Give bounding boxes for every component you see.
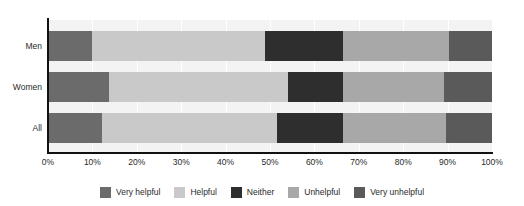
- x-tick-label: 90%: [439, 157, 456, 167]
- bar-segment-very-helpful[interactable]: [48, 72, 109, 102]
- x-tick-label: 60%: [306, 157, 323, 167]
- x-axis-line: [47, 152, 493, 154]
- legend-item[interactable]: Very unhelpful: [354, 187, 424, 198]
- legend-swatch-icon: [288, 187, 299, 198]
- x-tick-label: 30%: [173, 157, 190, 167]
- legend-label: Helpful: [190, 187, 216, 198]
- chart-legend: Very helpfulHelpfulNeitherUnhelpfulVery …: [0, 181, 524, 203]
- legend-swatch-icon: [231, 187, 242, 198]
- chart-title: [0, 0, 524, 10]
- bar-segment-helpful[interactable]: [102, 113, 277, 143]
- bar-segment-very-unhelpful[interactable]: [449, 31, 492, 61]
- bar-segment-unhelpful[interactable]: [343, 113, 446, 143]
- row-label-women: Women: [0, 82, 42, 92]
- legend-item[interactable]: Unhelpful: [288, 187, 340, 198]
- legend-swatch-icon: [100, 187, 111, 198]
- bar-segment-helpful[interactable]: [109, 72, 288, 102]
- x-tick-label: 80%: [395, 157, 412, 167]
- x-tick-label: 70%: [350, 157, 367, 167]
- bar-row-women[interactable]: [48, 72, 492, 102]
- y-axis-line: [47, 18, 49, 154]
- legend-swatch-icon: [174, 187, 185, 198]
- bar-row-all[interactable]: [48, 113, 492, 143]
- x-tick-label: 40%: [217, 157, 234, 167]
- stacked-bar-chart: Men Women All 0%10%20%30%40%50%60%70%80%…: [0, 0, 524, 206]
- legend-label: Very unhelpful: [370, 187, 424, 198]
- bar-segment-very-helpful[interactable]: [48, 113, 102, 143]
- row-label-men: Men: [0, 41, 42, 51]
- x-tick-label: 0%: [42, 157, 54, 167]
- bar-segment-very-unhelpful[interactable]: [444, 72, 492, 102]
- x-tick-label: 50%: [261, 157, 278, 167]
- bar-segment-unhelpful[interactable]: [343, 72, 444, 102]
- x-tick-label: 100%: [481, 157, 503, 167]
- legend-label: Unhelpful: [304, 187, 340, 198]
- bar-segment-helpful[interactable]: [92, 31, 266, 61]
- legend-item[interactable]: Helpful: [174, 187, 216, 198]
- x-tick-label: 20%: [128, 157, 145, 167]
- gridline: [492, 20, 493, 152]
- legend-item[interactable]: Neither: [231, 187, 274, 198]
- row-label-all: All: [0, 123, 42, 133]
- bar-segment-very-helpful[interactable]: [48, 31, 92, 61]
- legend-label: Neither: [247, 187, 274, 198]
- plot-area: [48, 20, 492, 152]
- bar-segment-very-unhelpful[interactable]: [446, 113, 492, 143]
- bar-row-men[interactable]: [48, 31, 492, 61]
- legend-item[interactable]: Very helpful: [100, 187, 160, 198]
- bar-segment-neither[interactable]: [265, 31, 343, 61]
- bar-segment-neither[interactable]: [277, 113, 343, 143]
- legend-swatch-icon: [354, 187, 365, 198]
- bar-segment-neither[interactable]: [288, 72, 343, 102]
- legend-label: Very helpful: [116, 187, 160, 198]
- x-tick-label: 10%: [84, 157, 101, 167]
- bar-segment-unhelpful[interactable]: [343, 31, 449, 61]
